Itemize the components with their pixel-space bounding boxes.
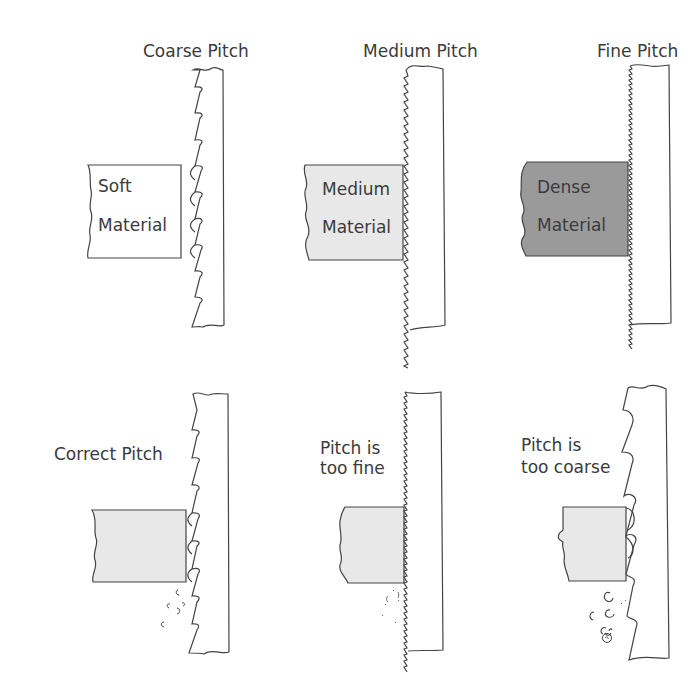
too-fine-material-block [340,507,404,583]
coarse-blade [192,67,224,327]
coarse-tooth-hooks [190,166,195,258]
medium-teeth [404,70,408,368]
fine-pitch-title: Fine Pitch [597,40,678,63]
correct-chips [161,590,184,627]
medium-material-label-line2: Material [322,216,391,239]
correct-material-block [92,510,186,582]
dense-material-label-line2: Material [537,214,606,237]
medium-blade [406,66,445,330]
correct-tooth-hooks [188,513,192,582]
medium-pitch-title: Medium Pitch [363,40,478,63]
medium-material-label-line1: Medium [322,178,390,201]
coarse-pitch-title: Coarse Pitch [143,40,249,63]
too-coarse-label-line2: too coarse [521,456,610,479]
too-coarse-blade [622,385,669,660]
too-coarse-label-line1: Pitch is [521,434,581,457]
soft-material-label-line1: Soft [98,175,132,198]
dense-material-label-line1: Dense [537,176,591,199]
too-coarse-chips [590,592,614,635]
too-coarse-material-block [558,507,626,581]
too-fine-label-line2: too fine [320,457,385,480]
soft-material-label-line2: Material [98,214,167,237]
pitch-diagram [0,0,700,685]
correct-blade [189,393,229,654]
correct-pitch-label: Correct Pitch [54,443,163,466]
too-fine-dust [382,590,399,623]
